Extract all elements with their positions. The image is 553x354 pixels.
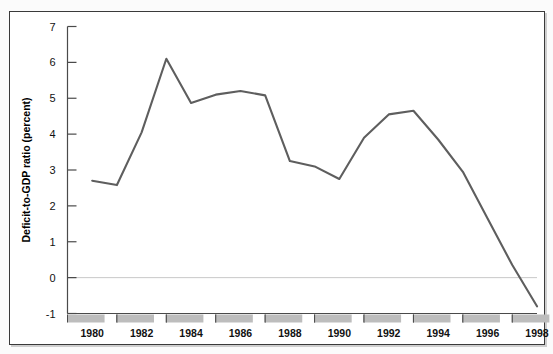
y-axis-tick-label: 5 [49,92,55,104]
y-axis-title: Deficit-to-GDP ratio (percent) [20,97,32,242]
x-axis-tick-label: 1990 [328,327,352,339]
y-axis-tick-label: 3 [49,164,55,176]
y-axis-tick-label: 7 [49,21,55,33]
x-axis-tick-label: 1996 [476,327,500,339]
x-axis-tick-label: 1998 [525,327,549,339]
x-axis-interval-bar [265,315,302,323]
x-axis-tick-label: 1994 [426,327,450,339]
x-axis-tick-label: 1980 [81,327,105,339]
x-axis-interval-bar [512,315,549,323]
y-axis-tick-label: 2 [49,200,55,212]
plot-area: -101234567Deficit-to-GDP ratio (percent)… [0,0,553,354]
y-axis-tick-label: 0 [49,272,55,284]
x-axis-interval-bar [216,315,253,323]
x-axis-tick-label: 1988 [278,327,302,339]
y-axis-tick-label: 4 [49,128,55,140]
y-axis-tick-label: -1 [46,308,56,320]
y-axis-tick-label: 1 [49,236,55,248]
chart-svg: -101234567Deficit-to-GDP ratio (percent)… [0,0,553,354]
x-axis-interval-bar [315,315,352,323]
x-axis-interval-bar [413,315,450,323]
x-axis-tick-label: 1986 [229,327,253,339]
x-axis-interval-bar [166,315,203,323]
x-axis-tick-label: 1984 [179,327,203,339]
x-axis-interval-bar [364,315,401,323]
data-line-series [92,59,537,307]
x-axis-tick-label: 1982 [130,327,154,339]
chart-screenshot: -101234567Deficit-to-GDP ratio (percent)… [0,0,553,354]
x-axis-tick-label: 1992 [377,327,401,339]
y-axis-tick-label: 6 [49,56,55,68]
x-axis-interval-bar [68,315,105,323]
x-axis-interval-bar [463,315,500,323]
x-axis-interval-bar [117,315,154,323]
